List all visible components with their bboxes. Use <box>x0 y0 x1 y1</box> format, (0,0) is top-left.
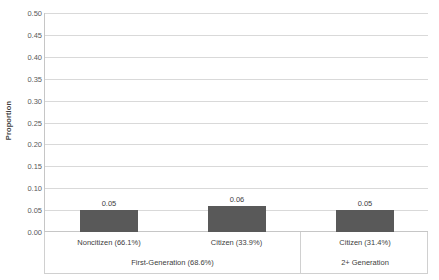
category-row: Noncitizen (66.1%)Citizen (33.9%)Citizen… <box>45 232 427 253</box>
y-tick-label: 0.30 <box>16 96 42 105</box>
category-label: Citizen (33.9%) <box>173 232 301 253</box>
y-tick-label: 0.00 <box>16 228 42 237</box>
group-row: First-Generation (68.6%)2+ Generation <box>45 253 427 274</box>
bar-value-label: 0.06 <box>230 195 245 204</box>
bar <box>80 210 138 232</box>
y-tick-label: 0.10 <box>16 184 42 193</box>
group-label: 2+ Generation <box>301 253 429 274</box>
y-axis-title-label: Proportion <box>5 100 14 139</box>
y-tick-label: 0.25 <box>16 118 42 127</box>
category-label: Noncitizen (66.1%) <box>45 232 173 253</box>
bars-layer: 0.050.060.05 <box>45 13 428 232</box>
bar-value-label: 0.05 <box>102 199 117 208</box>
y-axis-tick-labels: 0.500.450.400.350.300.250.200.150.100.05… <box>16 13 42 232</box>
category-label: Citizen (31.4%) <box>301 232 429 253</box>
category-label-table: Noncitizen (66.1%)Citizen (33.9%)Citizen… <box>44 232 428 274</box>
bar-slot: 0.06 <box>173 13 301 232</box>
bar-chart: Proportion 0.500.450.400.350.300.250.200… <box>0 0 439 280</box>
y-tick-label: 0.45 <box>16 30 42 39</box>
y-tick-label: 0.40 <box>16 52 42 61</box>
y-tick-label: 0.05 <box>16 206 42 215</box>
y-tick-label: 0.50 <box>16 9 42 18</box>
group-label: First-Generation (68.6%) <box>45 253 301 274</box>
bar-slot: 0.05 <box>301 13 429 232</box>
bar-slot: 0.05 <box>45 13 173 232</box>
bar <box>336 210 394 232</box>
bar-value-label: 0.05 <box>358 199 373 208</box>
bar <box>208 206 266 232</box>
y-tick-label: 0.15 <box>16 162 42 171</box>
plot-area: 0.050.060.05 <box>44 13 428 232</box>
y-tick-label: 0.20 <box>16 140 42 149</box>
y-tick-label: 0.35 <box>16 74 42 83</box>
